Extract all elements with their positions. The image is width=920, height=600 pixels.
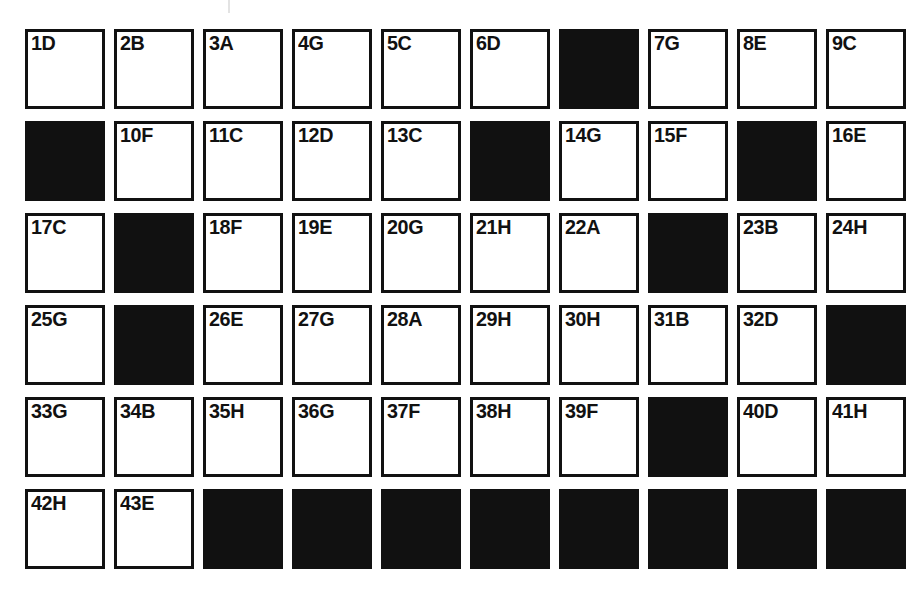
grid-cell-filled[interactable]: [648, 397, 728, 477]
grid-cell-open[interactable]: 10F: [114, 121, 194, 201]
grid-cell-label: 5C: [387, 31, 411, 55]
grid-cell-label: 43E: [120, 491, 154, 515]
grid-cell-label: 2B: [120, 31, 144, 55]
grid-cell-open[interactable]: 11C: [203, 121, 283, 201]
grid-cell-open[interactable]: 4G: [292, 29, 372, 109]
grid-cell-open[interactable]: 32D: [737, 305, 817, 385]
grid-cell-label: 12D: [298, 123, 333, 147]
grid-cell-label: 20G: [387, 215, 423, 239]
grid-cell-label: 29H: [476, 307, 511, 331]
grid-cell-open[interactable]: 42H: [25, 489, 105, 569]
grid-cell-label: 10F: [120, 123, 153, 147]
grid-cell-open[interactable]: 24H: [826, 213, 906, 293]
grid-cell-open[interactable]: 9C: [826, 29, 906, 109]
grid-cell-label: 16E: [832, 123, 866, 147]
grid-cell-label: 34B: [120, 399, 155, 423]
grid-cell-filled[interactable]: [826, 305, 906, 385]
grid-cell-open[interactable]: 26E: [203, 305, 283, 385]
grid-cell-label: 11C: [209, 123, 243, 147]
grid-cell-label: 28A: [387, 307, 422, 331]
grid-cell-label: 21H: [476, 215, 511, 239]
grid-cell-open[interactable]: 7G: [648, 29, 728, 109]
grid-cell-open[interactable]: 1D: [25, 29, 105, 109]
grid-cell-filled[interactable]: [737, 489, 817, 569]
grid-cell-filled[interactable]: [648, 489, 728, 569]
grid-cell-open[interactable]: 43E: [114, 489, 194, 569]
grid-cell-filled[interactable]: [203, 489, 283, 569]
sheet-canvas: 1D2B3A4G5C6D7G8E9C10F11C12D13C14G15F16E1…: [0, 0, 920, 600]
grid-cell-open[interactable]: 22A: [559, 213, 639, 293]
grid-cell-label: 42H: [31, 491, 66, 515]
grid-cell-label: 31B: [654, 307, 689, 331]
grid-cell-label: 37F: [387, 399, 420, 423]
grid-cell-label: 14G: [565, 123, 601, 147]
grid-cell-label: 40D: [743, 399, 778, 423]
grid-cell-open[interactable]: 21H: [470, 213, 550, 293]
grid-cell-open[interactable]: 37F: [381, 397, 461, 477]
grid-cell-label: 41H: [832, 399, 867, 423]
grid-cell-open[interactable]: 38H: [470, 397, 550, 477]
grid-cell-open[interactable]: 8E: [737, 29, 817, 109]
grid-cell-open[interactable]: 17C: [25, 213, 105, 293]
grid-cell-label: 3A: [209, 31, 233, 55]
grid-cell-open[interactable]: 35H: [203, 397, 283, 477]
grid-cell-open[interactable]: 14G: [559, 121, 639, 201]
grid-cell-label: 13C: [387, 123, 422, 147]
grid-cell-label: 35H: [209, 399, 244, 423]
grid-cell-filled[interactable]: [559, 489, 639, 569]
grid-cell-label: 18F: [209, 215, 242, 239]
grid-cell-open[interactable]: 33G: [25, 397, 105, 477]
grid-cell-open[interactable]: 36G: [292, 397, 372, 477]
grid-cell-open[interactable]: 41H: [826, 397, 906, 477]
grid-cell-open[interactable]: 12D: [292, 121, 372, 201]
grid-cell-filled[interactable]: [381, 489, 461, 569]
grid-cell-open[interactable]: 18F: [203, 213, 283, 293]
grid-cell-open[interactable]: 23B: [737, 213, 817, 293]
grid-cell-label: 17C: [31, 215, 66, 239]
grid-cell-filled[interactable]: [292, 489, 372, 569]
grid-cell-open[interactable]: 27G: [292, 305, 372, 385]
grid-cell-label: 9C: [832, 31, 856, 55]
grid-cell-open[interactable]: 15F: [648, 121, 728, 201]
grid-cell-open[interactable]: 29H: [470, 305, 550, 385]
grid-cell-open[interactable]: 20G: [381, 213, 461, 293]
grid-cell-label: 27G: [298, 307, 334, 331]
grid-cell-filled[interactable]: [114, 305, 194, 385]
grid-cell-open[interactable]: 5C: [381, 29, 461, 109]
grid-cell-open[interactable]: 6D: [470, 29, 550, 109]
grid-cell-filled[interactable]: [114, 213, 194, 293]
grid-cell-label: 8E: [743, 31, 766, 55]
grid-cell-open[interactable]: 16E: [826, 121, 906, 201]
grid-cell-open[interactable]: 19E: [292, 213, 372, 293]
grid-cell-filled[interactable]: [25, 121, 105, 201]
grid-cell-label: 15F: [654, 123, 687, 147]
grid-cell-label: 19E: [298, 215, 332, 239]
grid-cell-open[interactable]: 31B: [648, 305, 728, 385]
grid-cell-label: 23B: [743, 215, 778, 239]
grid-cell-filled[interactable]: [470, 489, 550, 569]
grid-cell-filled[interactable]: [737, 121, 817, 201]
grid-cell-open[interactable]: 39F: [559, 397, 639, 477]
grid-cell-open[interactable]: 13C: [381, 121, 461, 201]
grid-cell-filled[interactable]: [470, 121, 550, 201]
grid-cell-open[interactable]: 25G: [25, 305, 105, 385]
grid-cell-label: 33G: [31, 399, 67, 423]
grid-cell-open[interactable]: 34B: [114, 397, 194, 477]
grid-cell-label: 36G: [298, 399, 334, 423]
grid-cell-open[interactable]: 30H: [559, 305, 639, 385]
grid-cell-label: 4G: [298, 31, 324, 55]
grid-cell-label: 32D: [743, 307, 778, 331]
registration-tick-icon: [228, 0, 230, 13]
grid-cell-open[interactable]: 40D: [737, 397, 817, 477]
grid-cell-label: 25G: [31, 307, 67, 331]
grid-cell-filled[interactable]: [826, 489, 906, 569]
grid-cell-filled[interactable]: [559, 29, 639, 109]
square-grid: 1D2B3A4G5C6D7G8E9C10F11C12D13C14G15F16E1…: [25, 29, 909, 572]
grid-cell-open[interactable]: 28A: [381, 305, 461, 385]
grid-cell-filled[interactable]: [648, 213, 728, 293]
grid-cell-open[interactable]: 3A: [203, 29, 283, 109]
grid-cell-open[interactable]: 2B: [114, 29, 194, 109]
grid-cell-label: 38H: [476, 399, 511, 423]
grid-cell-label: 30H: [565, 307, 600, 331]
grid-cell-label: 7G: [654, 31, 680, 55]
